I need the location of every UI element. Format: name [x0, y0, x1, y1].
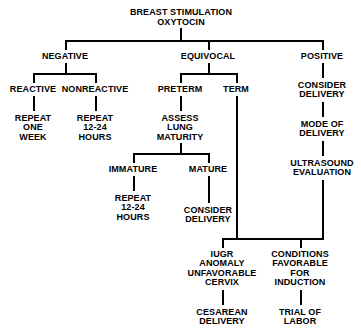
node-immature: IMMATURE	[95, 165, 171, 174]
connector-mature-stem	[208, 176, 210, 203]
connector-preterm-stem	[180, 96, 182, 111]
node-term: TERM	[206, 85, 266, 94]
node-equivocal: EQUIVOCAL	[163, 52, 253, 61]
connector-mature-drop	[208, 153, 210, 163]
node-repeat-one-week: REPEAT ONE WEEK	[0, 114, 68, 142]
connector-assess-bus	[133, 153, 209, 155]
connector-level1-bus	[65, 40, 323, 42]
node-repeat-12-24-hours-immature: REPEAT 12-24 HOURS	[98, 194, 168, 222]
connector-term-drop	[236, 73, 238, 83]
node-mature: MATURE	[177, 165, 239, 174]
node-consider-delivery-mature: CONSIDER DELIVERY	[171, 206, 245, 225]
connector-iugr-drop	[222, 238, 224, 248]
node-negative: NEGATIVE	[20, 52, 110, 61]
node-nonreactive: NONREACTIVE	[53, 85, 137, 94]
flowchart-canvas: BREAST STIMULATION OXYTOCIN NEGATIVE EQU…	[0, 0, 361, 335]
connector-positive-stem	[322, 63, 324, 78]
node-assess-lung-maturity: ASSESS LUNG MATURITY	[138, 114, 222, 142]
connector-immature-drop	[133, 153, 135, 163]
node-repeat-12-24-hours-nonreactive: REPEAT 12-24 HOURS	[60, 114, 130, 142]
connector-nonreactive-stem	[95, 96, 97, 111]
node-iugr-anomaly-unfavorable-cervix: IUGR ANOMALY UNFAVORABLE CERVIX	[174, 250, 270, 288]
node-ultrasound-evaluation: ULTRASOUND EVALUATION	[282, 159, 361, 178]
connector-bottom-bus	[222, 238, 324, 240]
connector-mode-of-delivery-stem	[322, 141, 324, 156]
connector-reactive-stem	[33, 96, 35, 111]
connector-preterm-drop	[180, 73, 182, 83]
node-consider-delivery-positive: CONSIDER DELIVERY	[284, 81, 360, 100]
connector-consider-delivery-stem	[322, 102, 324, 117]
connector-conditions-stem	[300, 290, 302, 305]
connector-negative-bus	[33, 73, 96, 75]
node-mode-of-delivery: MODE OF DELIVERY	[284, 120, 360, 139]
connector-ultrasound-stem	[322, 180, 324, 239]
node-positive: POSITIVE	[283, 52, 361, 61]
connector-negative-drop	[65, 40, 67, 50]
connector-positive-drop	[322, 40, 324, 50]
node-cesarean-delivery: CESAREAN DELIVERY	[182, 308, 262, 327]
connector-equivocal-bus	[180, 73, 236, 75]
node-trial-of-labor: TRIAL OF LABOR	[265, 308, 335, 327]
connector-equivocal-drop	[208, 40, 210, 50]
connector-immature-stem	[133, 176, 135, 191]
node-root: BREAST STIMULATION OXYTOCIN	[111, 8, 251, 27]
connector-iugr-stem	[222, 290, 224, 305]
connector-nonreactive-drop	[95, 73, 97, 83]
connector-reactive-drop	[33, 73, 35, 83]
connector-conditions-drop	[300, 238, 302, 248]
node-conditions-favorable-for-induction: CONDITIONS FAVORABLE FOR INDUCTION	[260, 250, 340, 288]
